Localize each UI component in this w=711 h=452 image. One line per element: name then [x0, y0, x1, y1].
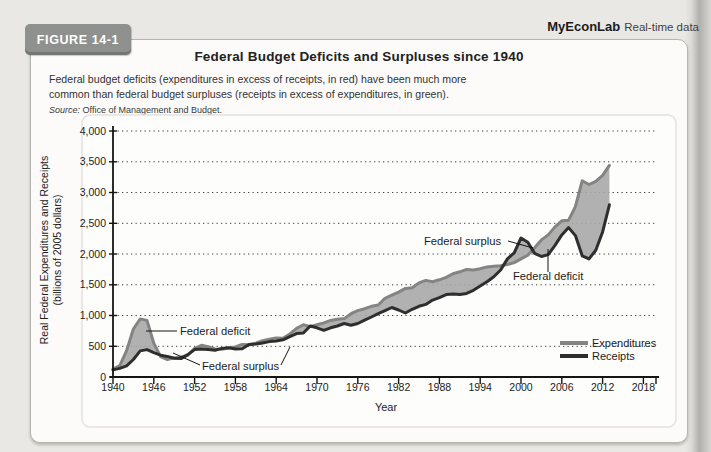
legend-label-receipts: Receipts — [592, 350, 635, 362]
brand-tagline: Real-time data — [624, 21, 699, 33]
caption-line-1: Federal budget deficits (expenditures in… — [49, 72, 687, 87]
scanned-textbook-page: { "page": { "badge": "FIGURE 14-1", "bra… — [0, 0, 711, 452]
x-tick-label: 1964 — [265, 381, 289, 393]
y-tick-label: 4,000 — [80, 125, 106, 137]
annotation-label: Federal surplus — [202, 360, 280, 372]
x-tick-label: 1958 — [224, 381, 248, 393]
x-tick-label: 2018 — [632, 381, 656, 393]
annotation-label: Federal surplus — [424, 235, 502, 247]
chart-area: 05001,0001,5002,0002,5003,0003,5004,0001… — [34, 110, 680, 430]
y-tick-label: 2,000 — [80, 248, 106, 260]
x-tick-label: 1976 — [346, 381, 370, 393]
budget-chart-svg: 05001,0001,5002,0002,5003,0003,5004,0001… — [34, 110, 680, 430]
figure-caption: Federal budget deficits (expenditures in… — [49, 72, 687, 102]
x-tick-label: 1982 — [387, 381, 411, 393]
y-axis-title-units: (billions of 2005 dollars) — [51, 195, 63, 306]
caption-line-2: common than federal budget surpluses (re… — [49, 87, 687, 102]
y-tick-label: 1,000 — [80, 309, 106, 321]
brand-name: MyEconLab — [547, 19, 620, 34]
figure-badge-label: FIGURE 14-1 — [37, 33, 119, 47]
x-tick-label: 2000 — [509, 381, 533, 393]
x-tick-label: 1946 — [142, 381, 166, 393]
y-axis-title: Real Federal Expenditures and Receipts — [38, 156, 50, 345]
y-tick-label: 1,500 — [80, 278, 106, 290]
x-tick-label: 2012 — [591, 381, 615, 393]
annotation-label: Federal deficit — [180, 325, 251, 337]
page-edge-shading — [685, 0, 711, 452]
y-tick-label: 2,500 — [80, 217, 106, 229]
y-tick-label: 500 — [88, 340, 106, 352]
figure-badge: FIGURE 14-1 — [25, 24, 131, 55]
x-tick-label: 1970 — [305, 381, 329, 393]
x-tick-label: 1940 — [101, 381, 125, 393]
annotation-label: Federal deficit — [513, 270, 584, 282]
x-tick-label: 2006 — [550, 381, 574, 393]
x-tick-label: 1988 — [428, 381, 452, 393]
x-tick-label: 1994 — [469, 381, 493, 393]
x-axis-title: Year — [375, 401, 398, 413]
legend-label-expenditures: Expenditures — [592, 337, 657, 349]
brand: MyEconLabReal-time data — [547, 17, 699, 35]
y-tick-label: 3,000 — [80, 186, 106, 198]
x-tick-label: 1952 — [183, 381, 207, 393]
y-tick-label: 3,500 — [80, 155, 106, 167]
